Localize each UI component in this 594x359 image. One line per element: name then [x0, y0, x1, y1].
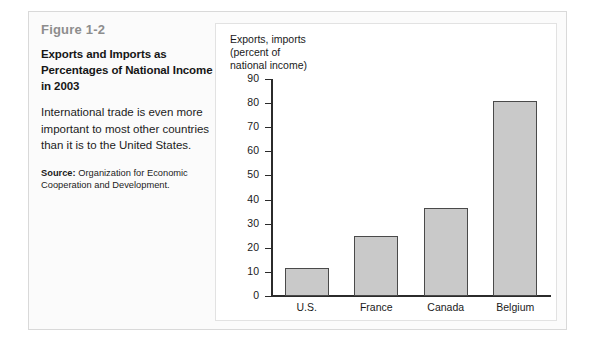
bar-canada — [424, 208, 468, 296]
y-tick-mark — [265, 103, 272, 104]
y-tick-mark — [265, 248, 272, 249]
bar-chart-panel: Exports, imports (percent of national in… — [215, 23, 557, 321]
y-tick-mark — [265, 127, 272, 128]
y-tick-mark — [265, 151, 272, 152]
figure-caption-column: Figure 1-2 Exports and Imports as Percen… — [41, 22, 217, 192]
figure-description: International trade is even more importa… — [41, 104, 217, 154]
y-tick-label: 10 — [219, 265, 259, 277]
y-tick-label: 60 — [219, 144, 259, 156]
x-tick-label: France — [342, 301, 412, 313]
y-tick-mark — [265, 175, 272, 176]
y-tick-label: 80 — [219, 96, 259, 108]
y-tick-mark — [265, 200, 272, 201]
y-tick-label: 90 — [219, 72, 259, 84]
y-tick-label: 70 — [219, 120, 259, 132]
y-tick-label: 50 — [219, 168, 259, 180]
y-tick-label: 20 — [219, 241, 259, 253]
y-tick-label: 30 — [219, 217, 259, 229]
x-tick-label: U.S. — [272, 301, 342, 313]
y-tick-mark — [265, 79, 272, 80]
y-tick-label: 40 — [219, 193, 259, 205]
x-tick-label: Belgium — [481, 301, 551, 313]
y-tick-mark — [265, 224, 272, 225]
bar-u-s — [285, 268, 329, 296]
y-tick-mark — [265, 296, 272, 297]
figure-frame: Figure 1-2 Exports and Imports as Percen… — [28, 11, 567, 330]
figure-title: Exports and Imports as Percentages of Na… — [41, 46, 217, 94]
x-tick-label: Canada — [411, 301, 481, 313]
bar-france — [354, 236, 398, 296]
y-axis-line — [271, 79, 273, 297]
plot-area: 0102030405060708090 U.S.FranceCanadaBelg… — [216, 24, 556, 320]
figure-number: Figure 1-2 — [41, 22, 217, 37]
figure-source-label: Source: — [41, 168, 76, 178]
y-tick-mark — [265, 272, 272, 273]
y-tick-label: 0 — [219, 289, 259, 301]
figure-source: Source: Organization for Economic Cooper… — [41, 167, 217, 192]
bar-belgium — [493, 101, 537, 296]
